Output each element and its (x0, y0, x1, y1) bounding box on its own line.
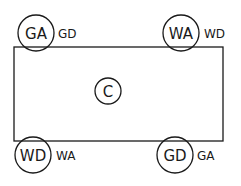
center-label: C (103, 83, 113, 101)
corner-label-bottom-left: WD (20, 147, 46, 165)
court-rectangle (14, 47, 223, 141)
court-diagram: C GA GD WA WD WD WA GD GA (0, 0, 241, 186)
corner-label-top-left: GA (25, 25, 48, 43)
corner-label-top-right: WA (169, 25, 194, 43)
side-label-bottom-right: GA (197, 149, 215, 163)
corner-label-bottom-right: GD (163, 147, 186, 165)
side-label-top-left: GD (58, 27, 77, 41)
side-label-top-right: WD (204, 27, 225, 41)
side-label-bottom-left: WA (56, 149, 76, 163)
